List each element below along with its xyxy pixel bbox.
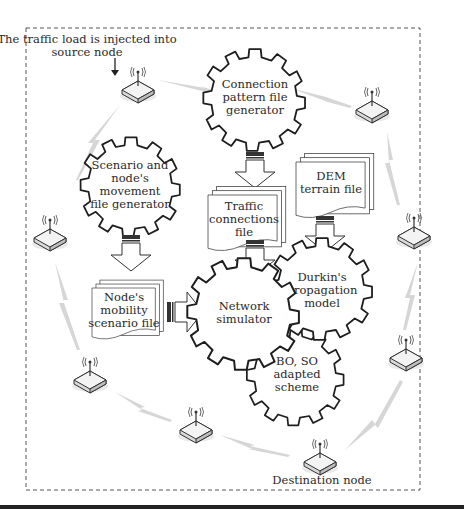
svg-text:DEM: DEM <box>316 169 346 183</box>
svg-text:file: file <box>235 225 253 239</box>
source-pointer-arrow <box>111 58 119 76</box>
svg-text:Node's: Node's <box>104 290 144 304</box>
svg-text:Scenario and: Scenario and <box>92 158 169 172</box>
arrow-down-icon <box>235 152 275 188</box>
svg-text:Durkin's: Durkin's <box>297 270 346 284</box>
svg-text:Traffic: Traffic <box>225 199 263 213</box>
node-router-icon <box>354 87 390 123</box>
node-router-icon <box>32 215 68 251</box>
svg-text:mobility: mobility <box>100 303 148 317</box>
simulation-framework-diagram: The traffic load is injected into source… <box>0 0 464 518</box>
destination-node-router-icon <box>302 439 338 475</box>
svg-text:Connection: Connection <box>222 77 289 91</box>
svg-text:node's: node's <box>111 171 149 185</box>
svg-text:file generator: file generator <box>90 197 170 211</box>
node-router-icon <box>72 357 108 393</box>
svg-text:simulator: simulator <box>216 312 272 326</box>
svg-text:adapted: adapted <box>273 367 321 381</box>
svg-text:terrain file: terrain file <box>300 182 362 196</box>
node-router-icon <box>388 335 424 371</box>
svg-text:Network: Network <box>219 299 271 313</box>
svg-text:scenario file: scenario file <box>88 316 160 330</box>
svg-text:connections: connections <box>209 212 279 226</box>
doc-mobility-scenario-file: Node's mobility scenario file <box>88 280 163 339</box>
svg-text:propagation: propagation <box>287 283 358 297</box>
svg-text:scheme: scheme <box>275 380 319 394</box>
node-router-icon <box>396 213 432 249</box>
source-annotation-line1: The traffic load is injected into <box>0 32 177 46</box>
source-annotation-line2: source node <box>51 45 122 59</box>
bottom-rule <box>0 505 464 509</box>
svg-text:BO, SO: BO, SO <box>276 354 318 368</box>
gear-scenario-movement-generator: Scenario and node's movement file genera… <box>81 137 180 236</box>
svg-text:model: model <box>304 296 340 310</box>
destination-annotation: Destination node <box>272 473 371 487</box>
svg-text:movement: movement <box>100 184 161 198</box>
node-router-icon <box>178 407 214 443</box>
svg-text:pattern file: pattern file <box>223 90 288 104</box>
source-node-router-icon <box>120 67 156 103</box>
gear-connection-pattern-generator: Connection pattern file generator <box>203 49 305 151</box>
doc-dem-terrain-file: DEM terrain file <box>296 153 374 217</box>
arrow-down-icon <box>111 235 151 271</box>
svg-text:generator: generator <box>226 103 284 117</box>
